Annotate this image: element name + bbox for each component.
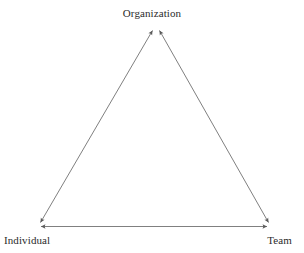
node-label-organization: Organization (0, 7, 304, 20)
node-label-team: Team (0, 234, 292, 247)
diagram-edges (41, 31, 269, 227)
edge-organization-team (160, 31, 269, 223)
edge-individual-organization (41, 31, 153, 223)
diagram-canvas: Organization Individual Team (0, 0, 304, 253)
triangle-diagram-graphic (0, 0, 304, 253)
